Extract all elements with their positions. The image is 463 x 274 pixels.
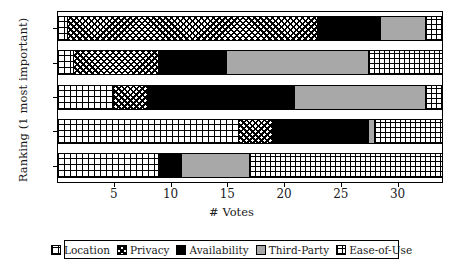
bar-segment-location [57,119,239,144]
x-axis-title: # Votes [0,205,463,219]
bar-segment-ease-of-use [426,16,443,41]
y-tick-mark [53,97,57,98]
y-tick-mark [53,63,57,64]
bar-track [57,119,443,144]
bar-segment-location [57,50,74,75]
bar-segment-availability [159,153,182,178]
x-tick-label: 30 [383,187,413,201]
x-tick-label: 25 [326,187,356,201]
legend-swatch-icon [176,245,186,255]
bar-segment-privacy [239,119,273,144]
stacked-bar-chart: Ranking (1 most important) 12345 5101520… [0,0,463,274]
bar-segment-location [57,153,159,178]
bar-segment-third-party [295,85,426,110]
legend-swatch-icon [51,245,61,255]
bar-segment-ease-of-use [375,119,443,144]
legend-label: Third-Party [269,244,329,256]
x-tick-label: 10 [156,187,186,201]
bar-segment-location [57,16,68,41]
bar-segment-third-party [381,16,426,41]
legend-swatch-icon [256,245,266,255]
bar-segment-third-party [227,50,369,75]
bar-segment-privacy [68,16,318,41]
bar-track [57,50,443,75]
x-tick-label: 20 [269,187,299,201]
legend-item: Third-Party [256,244,329,256]
plot-area: 12345 51015202530 [57,11,443,183]
legend-item: Location [51,244,110,256]
y-tick-mark [53,131,57,132]
legend-label: Privacy [130,244,169,256]
bar-track [57,16,443,41]
legend-label: Location [64,244,110,256]
chart-legend: LocationPrivacyAvailabilityThird-PartyEa… [64,240,399,259]
bar-segment-location [57,85,114,110]
bar-segment-ease-of-use [426,85,443,110]
legend-label: Availability [189,244,248,256]
bar-segment-availability [273,119,370,144]
bar-segment-privacy [114,85,148,110]
bar-segment-availability [148,85,296,110]
bar-row [57,16,443,41]
y-axis-title: Ranking (1 most important) [16,0,30,200]
y-tick-mark [53,28,57,29]
legend-item: Ease-of-Use [336,244,412,256]
bar-row [57,119,443,144]
bar-row [57,50,443,75]
legend-item: Availability [176,244,248,256]
bar-segment-third-party [182,153,250,178]
bar-row [57,85,443,110]
bar-segment-privacy [74,50,159,75]
legend-item: Privacy [117,244,169,256]
bar-segment-availability [318,16,380,41]
legend-swatch-icon [336,245,346,255]
legend-swatch-icon [117,245,127,255]
bar-segment-availability [159,50,227,75]
y-tick-mark [53,166,57,167]
bar-row [57,153,443,178]
bar-track [57,153,443,178]
bar-segment-ease-of-use [369,50,443,75]
bar-segment-ease-of-use [250,153,443,178]
bar-track [57,85,443,110]
x-tick-label: 15 [212,187,242,201]
x-tick-label: 5 [99,187,129,201]
legend-label: Ease-of-Use [349,244,412,256]
